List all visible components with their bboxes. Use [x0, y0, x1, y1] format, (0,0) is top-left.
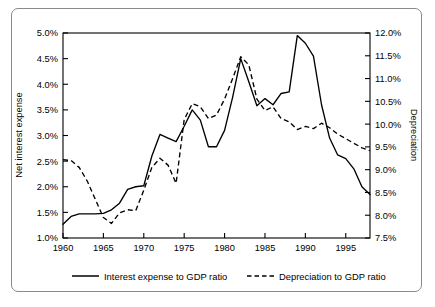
- x-ticklabel: 1985: [255, 243, 276, 253]
- y-ticklabel-right: 12.0%: [375, 28, 401, 38]
- series-interest-expense-line: [63, 36, 370, 225]
- figure: 1.0%1.5%2.0%2.5%3.0%3.5%4.0%4.5%5.0% 7.5…: [0, 0, 435, 307]
- y-ticklabel-left: 2.0%: [37, 182, 58, 192]
- x-ticklabel: 1970: [133, 243, 154, 253]
- x-ticklabel: 1965: [93, 243, 114, 253]
- x-ticklabel: 1960: [53, 243, 74, 253]
- y-ticklabel-left: 4.0%: [37, 80, 58, 90]
- y-ticklabel-left: 4.5%: [37, 54, 58, 64]
- line-chart: 1.0%1.5%2.0%2.5%3.0%3.5%4.0%4.5%5.0% 7.5…: [0, 0, 435, 307]
- y-ticklabel-right: 10.5%: [375, 97, 401, 107]
- y-ticklabel-right: 9.0%: [375, 165, 396, 175]
- x-ticklabel: 1995: [335, 243, 356, 253]
- chart-canvas: 1.0%1.5%2.0%2.5%3.0%3.5%4.0%4.5%5.0% 7.5…: [0, 0, 435, 307]
- x-ticklabel: 1975: [174, 243, 195, 253]
- y-ticklabel-left: 5.0%: [37, 28, 58, 38]
- y-ticklabel-right: 8.5%: [375, 188, 396, 198]
- y-ticklabel-right: 8.0%: [375, 211, 396, 221]
- series-depreciation-line: [63, 57, 370, 224]
- y-ticklabel-right: 11.5%: [375, 51, 401, 61]
- y-ticklabel-right: 7.5%: [375, 233, 396, 243]
- y-axis-right-title: Depreciation: [409, 109, 419, 161]
- y-ticklabel-left: 1.5%: [37, 208, 58, 218]
- legend: Interest expense to GDP ratio Depreciati…: [72, 271, 386, 282]
- y-ticklabel-left: 3.5%: [37, 105, 58, 115]
- y-ticklabel-left: 1.0%: [37, 233, 58, 243]
- x-ticklabel: 1990: [295, 243, 316, 253]
- y-ticklabel-left: 3.0%: [37, 131, 58, 141]
- legend-label-depreciation: Depreciation to GDP ratio: [279, 271, 386, 282]
- x-axis: 19601965197019751980198519901995: [53, 233, 356, 253]
- y-ticklabel-right: 9.5%: [375, 142, 396, 152]
- y-ticklabel-right: 10.0%: [375, 120, 401, 130]
- plot-frame: [63, 33, 370, 238]
- y-axis-left-title: Net interest expense: [14, 92, 24, 177]
- y-ticklabel-right: 11.0%: [375, 74, 401, 84]
- legend-label-interest-expense: Interest expense to GDP ratio: [104, 271, 227, 282]
- y-ticklabel-left: 2.5%: [37, 157, 58, 167]
- x-ticklabel: 1980: [214, 243, 235, 253]
